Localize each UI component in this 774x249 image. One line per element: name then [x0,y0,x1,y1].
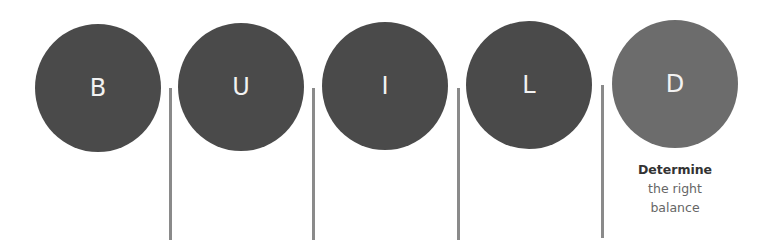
step-b-circle: B [35,24,161,152]
caption-heading: Determine [612,160,738,179]
caption-line-2: balance [612,198,738,217]
step-i-circle: I [322,22,448,150]
step-u-letter: U [232,73,250,101]
step-i-letter: I [381,72,388,100]
divider-3 [457,88,460,240]
step-u-circle: U [178,23,304,151]
step-d-circle: D [612,20,738,148]
step-l-circle: L [466,21,592,149]
caption-line-1: the right [612,179,738,198]
step-l-letter: L [522,71,535,99]
divider-2 [312,88,315,240]
divider-4 [601,85,604,238]
step-b-letter: B [90,74,106,102]
divider-1 [169,88,172,240]
step-d-caption: Determine the right balance [612,160,738,217]
step-d-letter: D [666,70,684,98]
